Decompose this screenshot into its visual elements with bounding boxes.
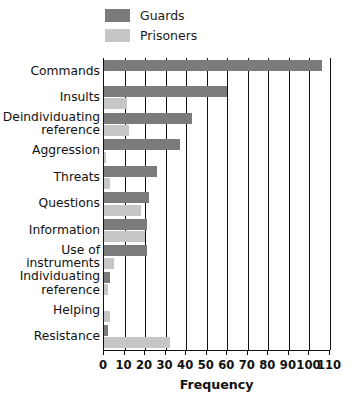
x-tick-50	[206, 350, 207, 355]
legend-item-label: Prisoners	[140, 29, 197, 42]
x-tick-label-80: 80	[259, 358, 275, 372]
category-label-8: Individuating reference	[0, 270, 100, 296]
gridline-100	[309, 58, 310, 350]
gridline-90	[289, 58, 290, 350]
bar-prisoners-4	[104, 178, 110, 189]
x-tick-label-60: 60	[218, 358, 234, 372]
gridline-110	[330, 58, 331, 350]
category-label-2: Deindividuating reference	[0, 111, 100, 137]
legend-item-guards: Guards	[105, 7, 255, 24]
x-tick-label-90: 90	[280, 358, 296, 372]
x-tick-70	[247, 350, 248, 355]
category-label-7: Use of instruments	[0, 244, 100, 270]
category-label-10: Resistance	[0, 330, 100, 343]
category-label-1: Insults	[0, 91, 100, 104]
bar-prisoners-3	[104, 152, 106, 163]
legend-item-label: Guards	[140, 9, 185, 22]
bar-guards-4	[104, 166, 157, 177]
x-tick-40	[185, 350, 186, 355]
bar-guards-6	[104, 219, 147, 230]
x-axis-title: Frequency	[103, 377, 330, 392]
category-label-6: Information	[0, 224, 100, 237]
x-tick-label-20: 20	[136, 358, 152, 372]
category-axis-labels: CommandsInsultsDeindividuating reference…	[0, 58, 100, 350]
bar-guards-0	[104, 60, 322, 71]
x-tick-label-110: 110	[317, 358, 341, 372]
x-tick-10	[124, 350, 125, 355]
category-label-3: Aggression	[0, 144, 100, 157]
x-axis-tick-labels: 0102030405060708090100110	[0, 358, 355, 374]
x-tick-label-0: 0	[99, 358, 107, 372]
bar-prisoners-7	[104, 258, 114, 269]
x-tick-110	[329, 350, 330, 355]
prison-study-bar-chart: GuardsPrisoners CommandsInsultsDeindivid…	[0, 0, 355, 406]
bar-prisoners-9	[104, 311, 110, 322]
bar-guards-1	[104, 86, 227, 97]
x-tick-100	[308, 350, 309, 355]
bar-prisoners-8	[104, 284, 108, 295]
chart-legend: GuardsPrisoners	[105, 7, 255, 47]
bar-prisoners-1	[104, 98, 127, 109]
x-tick-90	[288, 350, 289, 355]
x-tick-30	[165, 350, 166, 355]
category-label-5: Questions	[0, 197, 100, 210]
plot-area-wrapper: CommandsInsultsDeindividuating reference…	[0, 58, 355, 358]
guards-swatch	[105, 9, 130, 22]
category-label-4: Threats	[0, 171, 100, 184]
gridline-70	[248, 58, 249, 350]
bar-prisoners-2	[104, 125, 129, 136]
x-tick-60	[226, 350, 227, 355]
bar-guards-7	[104, 245, 147, 256]
bar-guards-3	[104, 139, 180, 150]
plot-area	[103, 58, 329, 350]
gridline-80	[268, 58, 269, 350]
x-tick-label-10: 10	[115, 358, 131, 372]
x-tick-label-30: 30	[157, 358, 173, 372]
x-tick-label-50: 50	[198, 358, 214, 372]
gridline-30	[166, 58, 167, 350]
bar-guards-5	[104, 192, 149, 203]
x-tick-label-40: 40	[177, 358, 193, 372]
x-axis-line	[103, 350, 330, 351]
prisoners-swatch	[105, 29, 130, 42]
x-tick-20	[144, 350, 145, 355]
legend-item-prisoners: Prisoners	[105, 27, 255, 44]
bar-guards-8	[104, 272, 110, 283]
bar-prisoners-6	[104, 231, 145, 242]
gridline-20	[145, 58, 146, 350]
x-tick-label-70: 70	[239, 358, 255, 372]
category-label-9: Helping	[0, 304, 100, 317]
gridline-50	[207, 58, 208, 350]
x-tick-0	[103, 350, 104, 355]
bar-prisoners-10	[104, 337, 170, 348]
bar-guards-2	[104, 113, 192, 124]
x-tick-80	[267, 350, 268, 355]
gridline-40	[186, 58, 187, 350]
bar-guards-10	[104, 325, 108, 336]
category-label-0: Commands	[0, 65, 100, 78]
gridline-60	[227, 58, 228, 350]
bar-prisoners-5	[104, 205, 141, 216]
